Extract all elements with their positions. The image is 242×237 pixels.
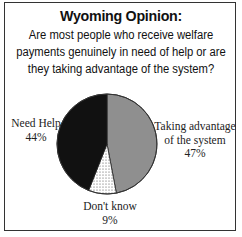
label-dont-know-name: Don't know (70, 200, 150, 214)
label-need-help: Need Help 44% (6, 117, 66, 144)
label-taking-line-1: Taking advantage (150, 120, 240, 134)
label-taking-advantage: Taking advantage of the system 47% (150, 120, 240, 161)
label-need-help-name: Need Help (6, 117, 66, 131)
label-taking-line-2: of the system (150, 134, 240, 148)
label-dont-know-value: 9% (70, 214, 150, 228)
label-dont-know: Don't know 9% (70, 200, 150, 227)
pie-slices (57, 94, 157, 194)
label-need-help-value: 44% (6, 131, 66, 145)
label-taking-value: 47% (150, 147, 240, 161)
